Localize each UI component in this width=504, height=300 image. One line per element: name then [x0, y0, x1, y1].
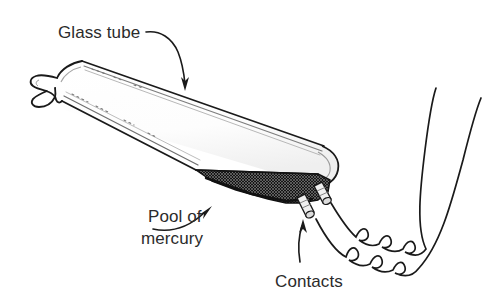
mercury-pool — [196, 170, 330, 203]
contacts-arrowhead — [299, 219, 307, 233]
lead-wire-lower — [316, 98, 481, 276]
contacts-label: Contacts — [275, 272, 343, 291]
lead-wire-upper — [331, 88, 436, 255]
lead-wires — [316, 88, 481, 276]
mercury-label-line2: mercury — [141, 229, 203, 248]
mercury-switch-diagram: Glass tube Pool of mercury Contacts — [0, 0, 504, 300]
glass-tube-label: Glass tube — [58, 23, 140, 42]
glass-tube-leader — [146, 32, 185, 84]
glass-seal-tip — [31, 75, 57, 107]
glass-tube-body — [55, 61, 338, 185]
mercury-label-line1: Pool of — [148, 207, 202, 226]
